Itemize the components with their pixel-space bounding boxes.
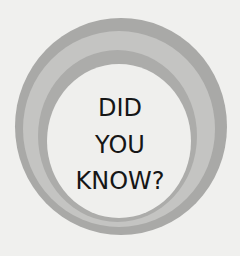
caption-line-1: DID bbox=[47, 90, 193, 127]
caption-line-2: YOU bbox=[47, 127, 193, 164]
caption-line-3: KNOW? bbox=[47, 163, 193, 200]
badge-caption: DID YOU KNOW? bbox=[47, 90, 193, 200]
